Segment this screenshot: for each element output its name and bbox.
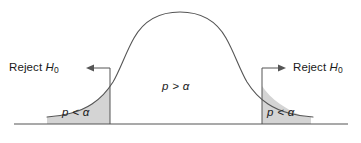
right-rejection-region-label: p < α xyxy=(267,107,295,119)
reject-left-subscript: 0 xyxy=(54,65,59,75)
statistical-distribution-figure: Reject H0 Reject H0 p > α p < α p < α xyxy=(0,0,361,143)
reject-right-hypothesis-symbol: H xyxy=(330,61,338,73)
non-rejection-region-label: p > α xyxy=(162,81,190,93)
right-arrowhead-icon xyxy=(278,65,286,72)
reject-left-text: Reject xyxy=(9,61,46,73)
reject-null-label-right: Reject H0 xyxy=(293,62,343,74)
left-rejection-region-label: p < α xyxy=(62,107,90,119)
reject-null-label-left: Reject H0 xyxy=(9,62,59,74)
reject-right-subscript: 0 xyxy=(338,65,343,75)
reject-right-text: Reject xyxy=(293,61,330,73)
left-arrowhead-icon xyxy=(86,65,94,72)
reject-left-hypothesis-symbol: H xyxy=(46,61,54,73)
